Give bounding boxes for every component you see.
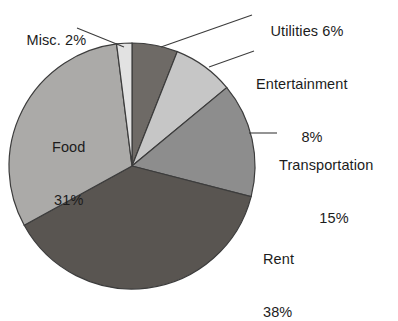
slice-label-utilities-text: Utilities 6% xyxy=(271,23,344,39)
slice-label-misc: Misc. 2% xyxy=(10,14,86,67)
slice-label-food-value: 31% xyxy=(52,192,85,210)
slice-label-food: Food 31% xyxy=(52,104,85,246)
slice-label-food-name: Food xyxy=(52,139,85,157)
slice-label-transportation: Transportation 15% xyxy=(279,122,389,264)
leader-line-utilities xyxy=(161,15,252,47)
slice-label-rent: Rent 38% xyxy=(263,216,294,321)
pie-slices xyxy=(9,43,255,289)
slice-label-rent-value: 38% xyxy=(263,304,294,321)
leader-line-entertainment xyxy=(209,51,254,67)
slice-label-transportation-value: 15% xyxy=(279,210,389,228)
slice-label-transportation-name: Transportation xyxy=(279,157,389,175)
slice-label-entertainment-name: Entertainment xyxy=(256,76,368,94)
slice-label-rent-name: Rent xyxy=(263,251,294,269)
slice-label-misc-text: Misc. 2% xyxy=(27,32,87,48)
